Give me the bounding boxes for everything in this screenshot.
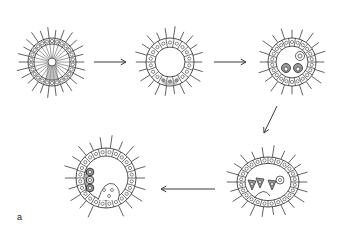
stage-5	[65, 135, 146, 217]
arrow-1-2	[94, 59, 126, 65]
developmental-stages-diagram	[0, 0, 354, 233]
arrow-3-4	[264, 106, 277, 133]
panel-label: a	[17, 212, 22, 222]
arrow-4-5	[161, 186, 215, 192]
stage-3	[259, 29, 326, 96]
arrow-2-3	[214, 59, 246, 65]
stage-2	[135, 26, 202, 96]
stage-1	[17, 27, 85, 98]
stage-4	[227, 145, 308, 217]
